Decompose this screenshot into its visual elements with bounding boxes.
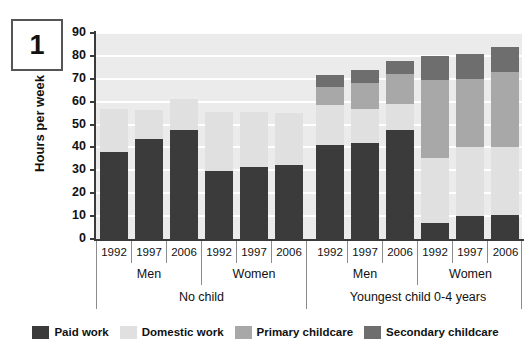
y-axis-tick-label: 80	[60, 48, 86, 62]
bar-segment	[456, 79, 484, 148]
bar-segment	[240, 112, 268, 167]
bar-segment	[421, 223, 449, 239]
bar-segment	[491, 215, 519, 239]
bar-segment	[275, 113, 303, 165]
bar-segment	[316, 75, 344, 86]
legend-label: Primary childcare	[257, 326, 354, 338]
x-axis-sex-label: Men	[97, 263, 202, 285]
bar-segment	[421, 56, 449, 80]
bar-segment	[275, 165, 303, 239]
legend-item[interactable]: Primary childcare	[235, 326, 354, 339]
bar-segment	[135, 110, 163, 140]
y-axis-tick-label: 60	[60, 94, 86, 108]
x-axis-year-label: 1992	[202, 241, 237, 263]
x-axis-year-label: 2006	[272, 241, 307, 263]
bar-stack[interactable]	[135, 33, 163, 239]
bar-segment	[351, 109, 379, 143]
y-axis-tick-mark	[90, 124, 95, 126]
bar-stack[interactable]	[205, 33, 233, 239]
x-axis-child-row: No childYoungest child 0-4 years	[96, 285, 522, 309]
y-axis-tick-label: 10	[60, 208, 86, 222]
legend-item[interactable]: Domestic work	[120, 326, 224, 339]
y-axis-tick-mark	[90, 238, 95, 240]
legend-item[interactable]: Paid work	[32, 326, 108, 339]
y-axis-tick-label: 0	[60, 231, 86, 245]
legend-label: Domestic work	[142, 326, 224, 338]
bar-segment	[421, 80, 449, 158]
x-axis-child-label: No child	[97, 285, 307, 309]
bar-segment	[386, 104, 414, 130]
y-axis-tick-label: 90	[60, 25, 86, 39]
bar-segment	[456, 54, 484, 79]
bar-segment	[205, 171, 233, 239]
x-axis-sex-label: Women	[418, 263, 523, 285]
legend-swatch-icon	[32, 326, 49, 339]
y-axis-title: Hours per week	[32, 44, 47, 204]
y-axis-tick-label: 50	[60, 117, 86, 131]
bar-stack[interactable]	[316, 33, 344, 239]
x-axis-year-label: 1997	[132, 241, 167, 263]
legend-label: Paid work	[54, 326, 108, 338]
x-axis-year-label: 2006	[383, 241, 418, 263]
x-axis-sex-row: MenWomenMenWomen	[96, 263, 522, 285]
bar-segment	[351, 143, 379, 239]
bar-stack[interactable]	[275, 33, 303, 239]
bar-segment	[386, 74, 414, 104]
x-axis-year-label: 1992	[313, 241, 348, 263]
bar-stack[interactable]	[421, 33, 449, 239]
bar-segment	[316, 87, 344, 105]
legend-item[interactable]: Secondary childcare	[364, 326, 499, 339]
bar-segment	[316, 145, 344, 239]
bar-segment	[386, 130, 414, 239]
bar-stack[interactable]	[491, 33, 519, 239]
y-axis-tick-label: 20	[60, 185, 86, 199]
bar-segment	[456, 216, 484, 239]
bar-segment	[135, 139, 163, 239]
y-axis-tick-mark	[90, 215, 95, 217]
x-axis-year-label: 1997	[348, 241, 383, 263]
x-axis-child-label: Youngest child 0-4 years	[313, 285, 523, 309]
bar-segment	[351, 70, 379, 84]
chart-legend: Paid workDomestic workPrimary childcareS…	[0, 322, 531, 342]
bar-stack[interactable]	[100, 33, 128, 239]
x-axis-year-row: 1992199720061992199720061992199720061992…	[96, 241, 522, 263]
bar-segment	[456, 147, 484, 216]
x-axis-year-label: 2006	[488, 241, 523, 263]
x-axis-year-label: 1997	[237, 241, 272, 263]
y-axis-tick-mark	[90, 32, 95, 34]
y-axis-line	[94, 31, 96, 241]
bar-segment	[170, 99, 198, 130]
bar-segment	[205, 112, 233, 172]
y-axis-tick-label: 70	[60, 71, 86, 85]
y-axis-tick-mark	[90, 169, 95, 171]
bar-stack[interactable]	[456, 33, 484, 239]
y-axis-tick-mark	[90, 78, 95, 80]
legend-swatch-icon	[235, 326, 252, 339]
y-axis-tick-mark	[90, 146, 95, 148]
x-axis-year-label: 1997	[453, 241, 488, 263]
bar-stack[interactable]	[240, 33, 268, 239]
bar-segment	[100, 152, 128, 239]
legend-swatch-icon	[120, 326, 137, 339]
bar-segment	[240, 167, 268, 239]
y-axis-tick-label: 40	[60, 139, 86, 153]
bar-stack[interactable]	[351, 33, 379, 239]
y-axis-tick-mark	[90, 55, 95, 57]
bar-segment	[491, 47, 519, 72]
legend-label: Secondary childcare	[386, 326, 499, 338]
bar-segment	[100, 109, 128, 152]
bar-segment	[491, 147, 519, 215]
bar-stack[interactable]	[170, 33, 198, 239]
bar-segment	[421, 158, 449, 223]
x-axis-year-label: 1992	[418, 241, 453, 263]
x-axis-sex-label: Women	[202, 263, 307, 285]
bar-stack[interactable]	[386, 33, 414, 239]
y-axis-tick-label: 30	[60, 162, 86, 176]
x-axis-sex-label: Men	[313, 263, 418, 285]
x-axis-year-label: 1992	[97, 241, 132, 263]
legend-swatch-icon	[364, 326, 381, 339]
bar-segment	[491, 72, 519, 148]
bar-segment	[316, 105, 344, 145]
y-axis-tick-mark	[90, 192, 95, 194]
x-axis-year-label: 2006	[167, 241, 202, 263]
